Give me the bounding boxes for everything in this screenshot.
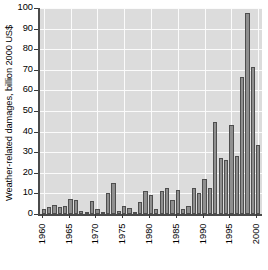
y-tick-label: 30	[14, 146, 33, 157]
bar	[106, 193, 110, 214]
bar	[149, 195, 153, 214]
x-tick-label: 1970	[90, 224, 101, 264]
y-tick-label: 0	[14, 208, 33, 219]
bar	[52, 205, 56, 214]
bar	[160, 191, 164, 214]
chart-figure: Weather-related damages, billion 2000 US…	[0, 0, 268, 270]
vertical-gridline	[178, 8, 179, 214]
bar	[90, 201, 94, 214]
bar	[68, 199, 72, 214]
vertical-gridline	[151, 8, 152, 214]
y-tick-label: 40	[14, 126, 33, 137]
plot-inner	[40, 8, 262, 214]
bar	[74, 200, 78, 214]
bar	[186, 206, 190, 214]
bar	[58, 207, 62, 214]
x-tick-label: 1965	[63, 224, 74, 264]
x-tick-label: 2000	[251, 224, 262, 264]
bar	[170, 200, 174, 214]
bar	[219, 158, 223, 214]
bar	[47, 207, 51, 214]
x-axis-tick-labels: 196019651970197519801985199019952000	[38, 216, 260, 270]
vertical-gridline	[124, 8, 125, 214]
vertical-gridline	[97, 8, 98, 214]
bar	[197, 193, 201, 214]
x-tick-label: 1960	[36, 224, 47, 264]
bar	[245, 13, 249, 214]
bar	[176, 190, 180, 214]
plot-area	[38, 8, 262, 216]
y-tick-label: 100	[14, 2, 33, 13]
x-tick-label: 1975	[117, 224, 128, 264]
bar	[235, 156, 239, 214]
bar	[122, 206, 126, 214]
bar	[256, 145, 260, 214]
bar	[224, 160, 228, 214]
x-tick-label: 1980	[144, 224, 155, 264]
x-tick-label: 1985	[170, 224, 181, 264]
bar	[138, 202, 142, 214]
y-tick-label: 20	[14, 167, 33, 178]
vertical-gridline	[71, 8, 72, 214]
x-tick-label: 1990	[197, 224, 208, 264]
bar	[213, 122, 217, 214]
y-tick-label: 70	[14, 64, 33, 75]
y-axis-tick-labels: 0102030405060708090100	[14, 8, 33, 214]
bar	[202, 179, 206, 214]
y-tick-label: 90	[14, 23, 33, 34]
bar	[208, 188, 212, 214]
bar	[192, 188, 196, 214]
y-tick-label: 80	[14, 43, 33, 54]
y-tick-label: 10	[14, 187, 33, 198]
bar	[143, 191, 147, 214]
bar	[240, 77, 244, 214]
y-tick-label: 60	[14, 84, 33, 95]
bar	[165, 188, 169, 214]
vertical-gridline	[44, 8, 45, 214]
x-tick-label: 1995	[224, 224, 235, 264]
bar	[229, 125, 233, 214]
y-tick-label: 50	[14, 105, 33, 116]
bar	[63, 206, 67, 214]
bar	[111, 183, 115, 214]
bar	[251, 67, 255, 214]
